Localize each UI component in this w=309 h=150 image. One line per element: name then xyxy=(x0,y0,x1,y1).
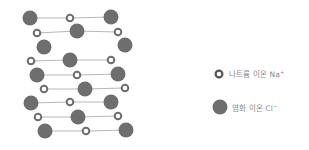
sodium-ion xyxy=(74,72,81,79)
sodium-ion xyxy=(83,128,90,135)
lattice-ions xyxy=(23,10,134,139)
chloride-ion xyxy=(71,110,86,125)
chloride-ion xyxy=(78,82,93,97)
sodium-ion xyxy=(67,15,74,22)
sodium-ion xyxy=(28,58,35,65)
chloride-ion xyxy=(70,24,85,39)
chloride-ion xyxy=(118,38,133,53)
legend-label-chloride: 염화 이온 Cl− xyxy=(232,102,277,113)
chloride-ion xyxy=(63,53,78,68)
chloride-ion xyxy=(119,123,134,138)
nacl-crystal-lattice xyxy=(0,0,160,150)
legend-item-sodium: 나트륨 이온 Na+ xyxy=(214,68,284,79)
sodium-ion xyxy=(108,57,115,64)
chloride-ion xyxy=(24,96,39,111)
sodium-ion xyxy=(115,113,122,120)
sodium-ion xyxy=(122,85,129,92)
chloride-ion xyxy=(104,95,119,110)
chloride-ion-icon xyxy=(212,99,228,115)
chloride-ion xyxy=(111,67,126,82)
sodium-ion xyxy=(35,114,42,121)
sodium-ion xyxy=(34,30,41,37)
legend-item-chloride: 염화 이온 Cl− xyxy=(212,99,277,115)
sodium-ion xyxy=(41,86,48,93)
chloride-ion xyxy=(23,11,38,26)
sodium-ion xyxy=(115,29,122,36)
chloride-ion xyxy=(37,40,52,55)
legend-label-sodium: 나트륨 이온 Na+ xyxy=(229,68,284,79)
chloride-ion xyxy=(30,68,45,83)
sodium-ion xyxy=(67,99,74,106)
sodium-ion-icon xyxy=(214,69,224,79)
chloride-ion xyxy=(104,10,119,25)
chloride-ion xyxy=(38,124,53,139)
